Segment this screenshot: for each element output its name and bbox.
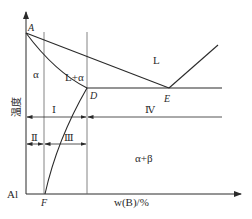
point-F-label: F xyxy=(40,197,48,208)
zone-III-label: Ⅲ xyxy=(64,132,74,143)
region-liquid-alpha-label: L+α xyxy=(65,71,84,83)
point-A-label: A xyxy=(27,22,35,33)
zone-II-label: Ⅱ xyxy=(31,132,38,143)
region-liquid-label: L xyxy=(153,54,160,66)
liquidus-line-AE xyxy=(26,33,169,88)
origin-label: Al xyxy=(7,188,18,200)
point-D-label: D xyxy=(89,90,98,101)
point-E-label: E xyxy=(163,93,170,104)
y-axis-label: 温度 xyxy=(10,97,22,117)
liquidus-line-right xyxy=(169,45,218,88)
x-axis-label: w(B)/% xyxy=(114,196,149,209)
region-alpha-beta-label: α+β xyxy=(135,152,153,164)
phase-diagram: A D E F L L+α α α+β Ⅰ Ⅱ Ⅲ Ⅳ 温度 Al w(B)/% xyxy=(0,0,252,219)
region-alpha-label: α xyxy=(33,68,39,80)
zone-I-label: Ⅰ xyxy=(52,104,56,115)
zone-IV-label: Ⅳ xyxy=(145,104,156,115)
